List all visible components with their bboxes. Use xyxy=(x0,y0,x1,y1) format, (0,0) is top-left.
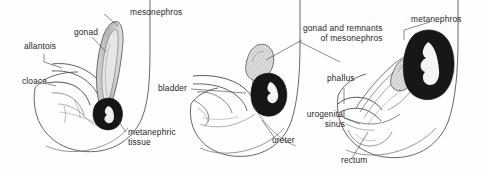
label-gonad-remnants-line2: of mesonephros xyxy=(303,34,400,44)
urogenital-development-figure xyxy=(0,0,486,174)
label-bladder: bladder xyxy=(158,84,187,94)
label-allantois: allantois xyxy=(24,42,56,52)
label-metanephric-tissue-line2: tissue xyxy=(128,138,151,148)
label-cloaca: cloaca xyxy=(22,77,47,87)
label-urogenital-sinus-line2: sinus xyxy=(303,120,345,130)
label-gonad: gonad xyxy=(74,28,98,38)
label-rectum: rectum xyxy=(341,156,368,166)
label-phallus: phallus xyxy=(327,74,355,84)
label-ureter: ureter xyxy=(272,136,295,146)
label-mesonephros: mesonephros xyxy=(130,8,182,18)
label-metanephros: metanephros xyxy=(411,15,462,25)
